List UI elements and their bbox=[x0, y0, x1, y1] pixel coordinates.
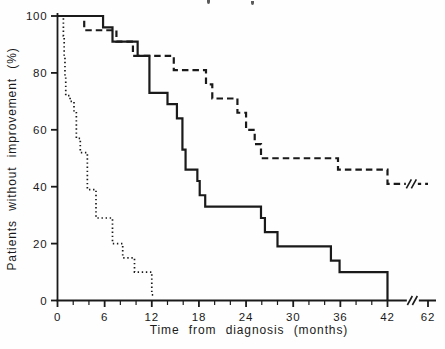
y-axis-tick-label: 0 bbox=[40, 295, 47, 307]
x-axis-tick-label: 24 bbox=[239, 311, 253, 323]
survival-figure: Patients without improvement (%) Time fr… bbox=[0, 0, 445, 349]
x-axis-title: Time from diagnosis (months) bbox=[150, 323, 348, 337]
y-axis-tick-label: 80 bbox=[33, 67, 47, 79]
clipped-title-fragment bbox=[207, 0, 210, 4]
y-axis-tick-label: 100 bbox=[26, 10, 48, 22]
x-axis-tick-label: 36 bbox=[333, 311, 347, 323]
x-axis-tick-label: 18 bbox=[192, 311, 206, 323]
x-axis-tick-label: 0 bbox=[54, 311, 61, 323]
y-axis-tick-label: 40 bbox=[33, 181, 47, 193]
x-axis-tick-label: 62 bbox=[421, 311, 435, 323]
x-axis-tick-label: 42 bbox=[380, 311, 394, 323]
x-axis-tick-label: 12 bbox=[145, 311, 159, 323]
x-axis-tick-label: 6 bbox=[101, 311, 108, 323]
x-axis-tick-label: 30 bbox=[286, 311, 300, 323]
dotted-curve bbox=[58, 16, 155, 295]
chart-canvas: 0204060801000612182430364262 bbox=[0, 0, 445, 349]
y-axis-title: Patients without improvement (%) bbox=[5, 47, 19, 270]
clipped-title-fragment bbox=[251, 1, 254, 5]
y-axis-tick-label: 60 bbox=[33, 124, 47, 136]
y-axis-tick-label: 20 bbox=[33, 238, 47, 250]
